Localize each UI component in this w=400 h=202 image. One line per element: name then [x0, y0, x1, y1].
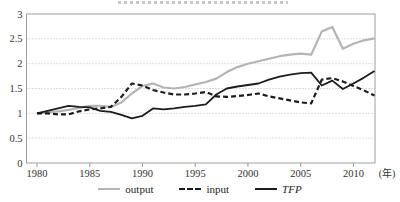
x-tick-label-1980: 1980 — [27, 168, 48, 179]
legend-item-output: output — [98, 184, 153, 195]
figure-canvas: 00.511.522.53198019851990199520002005201… — [0, 0, 400, 202]
legend-label-output: output — [125, 184, 153, 195]
x-tick-label-1985: 1985 — [79, 168, 100, 179]
x-tick-label-2010: 2010 — [343, 168, 364, 179]
legend-item-tfp: TFP — [255, 184, 302, 195]
y-tick-label-1: 1 — [17, 108, 22, 119]
y-tick-label-0: 0 — [17, 158, 22, 169]
y-tick-label-2: 2 — [17, 58, 22, 69]
y-tick-label-2.5: 2.5 — [9, 33, 22, 44]
output-line-swatch — [98, 188, 120, 190]
y-tick-label-1.5: 1.5 — [9, 83, 22, 94]
chart-legend: output input TFP — [0, 181, 400, 197]
y-tick-label-0.5: 0.5 — [9, 133, 22, 144]
legend-item-input: input — [179, 184, 229, 195]
series-line-TFP — [37, 71, 375, 118]
series-line-output — [37, 27, 375, 113]
line-chart: 00.511.522.53198019851990199520002005201… — [0, 0, 400, 202]
x-tick-label-1995: 1995 — [185, 168, 206, 179]
x-tick-label-1990: 1990 — [132, 168, 153, 179]
y-tick-label-3: 3 — [17, 9, 22, 20]
series-line-input — [37, 78, 375, 114]
x-axis-unit-label: (年) — [379, 167, 396, 180]
x-tick-label-2005: 2005 — [290, 168, 311, 179]
legend-label-tfp: TFP — [282, 184, 302, 195]
legend-label-input: input — [206, 184, 229, 195]
tfp-line-swatch — [255, 188, 277, 190]
input-line-swatch — [179, 188, 201, 190]
x-tick-label-2000: 2000 — [237, 168, 258, 179]
